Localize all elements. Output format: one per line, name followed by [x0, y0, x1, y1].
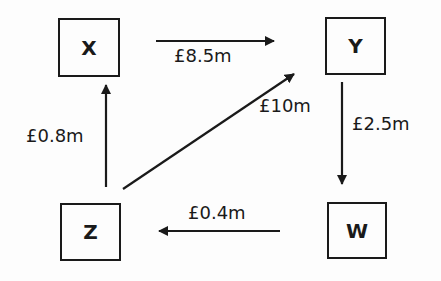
node-x-label: X	[81, 36, 96, 60]
flow-label-x-y: £8.5m	[174, 45, 232, 66]
arrow-z-to-y	[123, 74, 294, 189]
node-y-label: Y	[348, 34, 362, 58]
node-w: W	[327, 202, 387, 259]
flow-label-z-y: £10m	[259, 95, 311, 116]
flow-label-z-x: £0.8m	[26, 125, 84, 146]
flow-label-w-z: £0.4m	[188, 202, 246, 223]
flow-label-y-w: £2.5m	[352, 113, 410, 134]
node-y: Y	[325, 17, 386, 75]
node-x: X	[58, 18, 120, 77]
node-w-label: W	[346, 219, 368, 243]
node-z: Z	[60, 203, 121, 261]
node-z-label: Z	[83, 220, 98, 244]
